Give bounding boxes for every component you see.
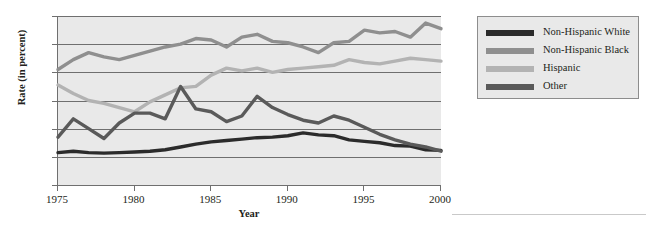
- legend-swatch-icon: [486, 84, 534, 90]
- x-tick-mark: [210, 185, 211, 191]
- x-axis-title: Year: [57, 208, 441, 219]
- x-tick-mark: [440, 185, 441, 191]
- x-tick-label: 1985: [187, 193, 233, 205]
- legend-item-non-hispanic-black: Non-Hispanic Black: [486, 42, 630, 59]
- legend-swatch-icon: [486, 30, 534, 36]
- x-tick-mark: [287, 185, 288, 191]
- x-tick-mark: [57, 185, 58, 191]
- y-axis-title: Rate (in percent): [16, 3, 27, 133]
- legend-item-label: Other: [543, 81, 567, 92]
- x-tick-mark: [363, 185, 364, 191]
- footer-rule: [452, 214, 646, 215]
- line-chart: Rate (in percent) 0102030405060 19751980…: [0, 0, 450, 225]
- series-lines: [58, 16, 441, 185]
- legend-item-label: Non-Hispanic White: [543, 27, 630, 38]
- x-tick-label: 2000: [417, 193, 463, 205]
- x-tick-label: 1975: [34, 193, 80, 205]
- x-axis-line: [57, 185, 441, 186]
- legend: Non-Hispanic White Non-Hispanic Black Hi…: [477, 16, 639, 99]
- chart-figure: Rate (in percent) 0102030405060 19751980…: [0, 0, 646, 225]
- legend-item-label: Non-Hispanic Black: [543, 45, 629, 56]
- legend-item-hispanic: Hispanic: [486, 60, 630, 77]
- x-tick-label: 1995: [340, 193, 386, 205]
- x-tick-label: 1990: [264, 193, 310, 205]
- legend-item-label: Hispanic: [543, 63, 580, 74]
- x-tick-mark: [134, 185, 135, 191]
- y-tick-mark: [52, 157, 57, 158]
- legend-swatch-icon: [486, 48, 534, 54]
- x-tick-label: 1980: [111, 193, 157, 205]
- y-tick-mark: [52, 16, 57, 17]
- legend-item-other: Other: [486, 78, 630, 95]
- legend-swatch-icon: [486, 66, 534, 72]
- y-tick-mark: [52, 72, 57, 73]
- plot-area: [57, 16, 441, 185]
- y-tick-mark: [52, 101, 57, 102]
- series-line: [58, 86, 441, 151]
- y-tick-mark: [52, 44, 57, 45]
- y-tick-mark: [52, 129, 57, 130]
- legend-item-non-hispanic-white: Non-Hispanic White: [486, 24, 630, 41]
